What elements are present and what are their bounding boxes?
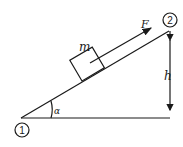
- angle-label: α: [54, 106, 60, 116]
- mass-label: m: [79, 40, 90, 54]
- incline-diagram: m F h α 1 2: [0, 0, 183, 147]
- point-1-marker: 1: [15, 123, 29, 137]
- angle-arc: [51, 101, 52, 118]
- force-label: F: [140, 18, 149, 31]
- point-1-label: 1: [19, 125, 25, 136]
- height-label: h: [164, 69, 172, 83]
- point-2-marker: 2: [163, 13, 177, 27]
- point-2-label: 2: [167, 15, 173, 26]
- force-arrow: [90, 28, 151, 63]
- incline-line: [21, 31, 169, 118]
